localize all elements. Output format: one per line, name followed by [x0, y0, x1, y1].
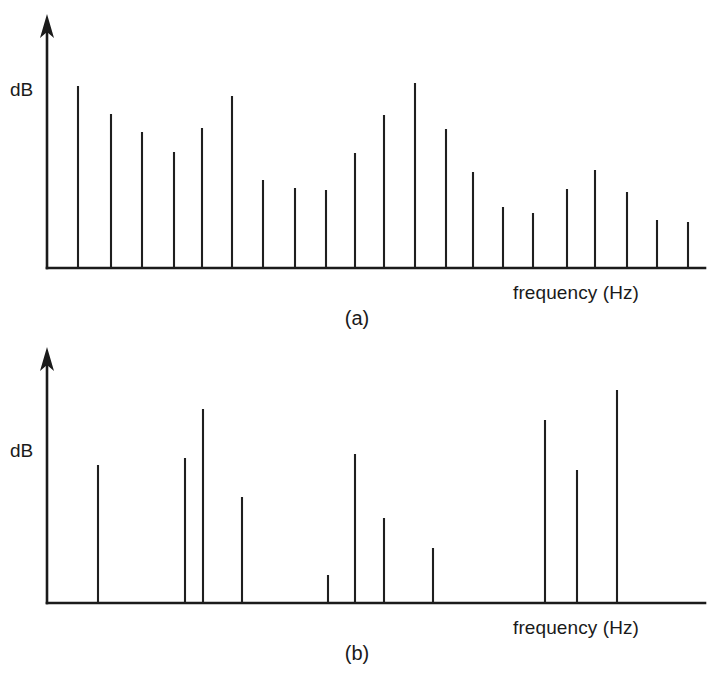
panel-b-spectral-lines	[98, 390, 617, 603]
panel-a-caption: (a)	[345, 307, 369, 329]
x-axis-label: frequency (Hz)	[513, 617, 639, 638]
panel-a-spectral-lines	[78, 83, 688, 268]
panel-b-axes	[40, 347, 705, 603]
y-axis-label: dB	[10, 79, 33, 100]
y-axis-label: dB	[10, 440, 33, 461]
figure-root: dB frequency (Hz) (a) dB frequency (Hz) …	[0, 0, 718, 673]
panel-a-axes	[40, 14, 705, 268]
panel-b: dB frequency (Hz) (b)	[0, 333, 718, 673]
panel-a: dB frequency (Hz) (a)	[0, 0, 718, 333]
panel-b-caption: (b)	[345, 642, 369, 664]
x-axis-label: frequency (Hz)	[513, 282, 639, 303]
